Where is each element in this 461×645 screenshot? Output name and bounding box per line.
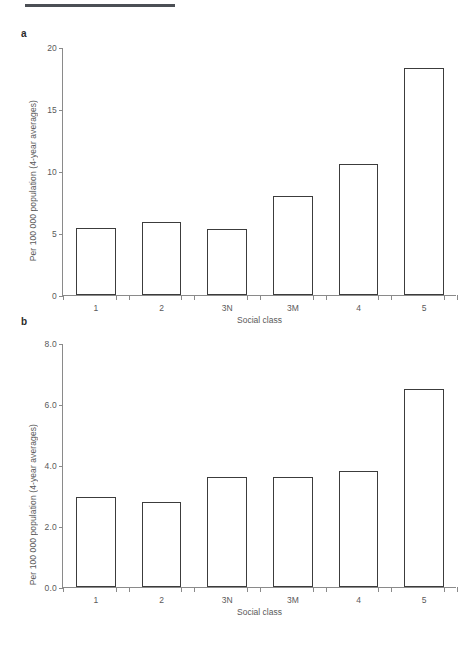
x-tick-label-b-1: 1 xyxy=(93,595,98,605)
x-tick-label-a-3M: 3M xyxy=(287,303,299,313)
x-tick-label-a-5: 5 xyxy=(422,303,427,313)
x-tick-label-b-3N: 3N xyxy=(222,595,233,605)
x-tick-b-end xyxy=(457,587,458,592)
bar-b-5 xyxy=(404,389,443,587)
x-tick-a-2b xyxy=(247,295,248,300)
x-tick-a-5a xyxy=(391,295,392,300)
x-axis-label-b: Social class xyxy=(237,607,282,617)
bar-a-1 xyxy=(76,228,115,295)
x-tick-b-2b xyxy=(247,587,248,592)
x-tick-b-1a xyxy=(129,587,130,592)
x-tick-a-3a xyxy=(260,295,261,300)
x-tick-b-4a xyxy=(326,587,327,592)
bar-a-3M xyxy=(273,196,312,295)
x-tick-label-a-1: 1 xyxy=(93,303,98,313)
bar-b-3N xyxy=(207,477,246,587)
chart-panel-b: Per 100 000 population (4-year averages)… xyxy=(0,336,461,636)
y-tick-label-a-3: 15 xyxy=(47,105,57,115)
y-tick-label-a-0: 0 xyxy=(52,291,57,301)
x-tick-label-b-4: 4 xyxy=(356,595,361,605)
header-rule xyxy=(25,4,175,7)
x-axis-label-a: Social class xyxy=(237,315,282,325)
x-tick-a-0a xyxy=(63,295,64,300)
plot-area-a: Social class 05101520123N3M45 xyxy=(62,48,456,296)
plot-area-b: Social class 0.02.04.06.08.0123N3M45 xyxy=(62,344,456,588)
x-tick-label-a-4: 4 xyxy=(356,303,361,313)
bar-b-1 xyxy=(76,497,115,587)
y-tick-b-4 xyxy=(59,344,63,345)
y-tick-a-2 xyxy=(59,172,63,173)
bar-a-3N xyxy=(207,229,246,295)
x-tick-b-0b xyxy=(116,587,117,592)
figure-page: a b Per 100 000 population (4-year avera… xyxy=(0,0,461,645)
x-tick-b-5a xyxy=(391,587,392,592)
bar-a-5 xyxy=(404,68,443,295)
bar-a-4 xyxy=(339,164,378,295)
y-tick-label-b-3: 6.0 xyxy=(45,400,57,410)
y-axis-label-b: Per 100 000 population (4-year averages) xyxy=(28,424,38,585)
x-tick-b-2a xyxy=(194,587,195,592)
x-tick-label-b-2: 2 xyxy=(159,595,164,605)
x-tick-b-3b xyxy=(313,587,314,592)
y-tick-a-3 xyxy=(59,110,63,111)
y-tick-label-b-2: 4.0 xyxy=(45,461,57,471)
y-tick-a-1 xyxy=(59,234,63,235)
chart-panel-a: Per 100 000 population (4-year averages)… xyxy=(0,40,461,315)
x-tick-a-4a xyxy=(326,295,327,300)
panel-label-a: a xyxy=(21,28,27,39)
x-tick-b-4b xyxy=(378,587,379,592)
y-tick-label-a-4: 20 xyxy=(47,43,57,53)
x-tick-label-b-3M: 3M xyxy=(287,595,299,605)
x-tick-label-a-2: 2 xyxy=(159,303,164,313)
y-tick-b-3 xyxy=(59,405,63,406)
y-tick-label-b-4: 8.0 xyxy=(45,339,57,349)
x-tick-b-1b xyxy=(181,587,182,592)
y-tick-label-b-0: 0.0 xyxy=(45,583,57,593)
bar-b-2 xyxy=(142,502,181,587)
x-tick-b-5b xyxy=(444,587,445,592)
y-axis-label-a: Per 100 000 population (4-year averages) xyxy=(28,100,38,261)
x-tick-a-end xyxy=(457,295,458,300)
x-tick-b-3a xyxy=(260,587,261,592)
x-tick-label-b-5: 5 xyxy=(422,595,427,605)
x-tick-label-a-3N: 3N xyxy=(222,303,233,313)
y-tick-b-1 xyxy=(59,527,63,528)
x-tick-a-1b xyxy=(181,295,182,300)
x-tick-a-3b xyxy=(313,295,314,300)
x-tick-b-0a xyxy=(63,587,64,592)
x-tick-a-4b xyxy=(378,295,379,300)
x-tick-a-5b xyxy=(444,295,445,300)
y-tick-a-4 xyxy=(59,48,63,49)
x-tick-a-2a xyxy=(194,295,195,300)
x-tick-a-1a xyxy=(129,295,130,300)
y-tick-label-b-1: 2.0 xyxy=(45,522,57,532)
x-tick-a-0b xyxy=(116,295,117,300)
y-tick-b-2 xyxy=(59,466,63,467)
panel-label-b: b xyxy=(21,316,27,327)
y-tick-label-a-1: 5 xyxy=(52,229,57,239)
y-tick-label-a-2: 10 xyxy=(47,167,57,177)
bar-a-2 xyxy=(142,222,181,295)
bar-b-4 xyxy=(339,471,378,587)
bar-b-3M xyxy=(273,477,312,587)
